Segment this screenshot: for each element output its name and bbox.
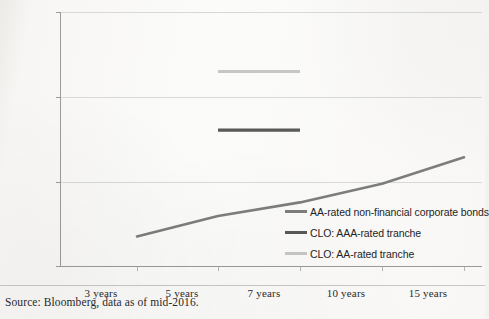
legend-label-clo-aaa-tranche: CLO: AAA-rated tranche [310, 227, 421, 239]
x-tick-mark-3-years [137, 267, 138, 271]
legend-swatch-icon-aa-corporate-bonds [285, 210, 307, 213]
legend-swatch-icon-clo-aaa-tranche [285, 231, 307, 234]
legend-label-aa-corporate-bonds: AA-rated non-financial corporate bonds [310, 206, 489, 218]
x-tick-mark-7-years [300, 267, 301, 271]
legend-item-clo-aa-tranche: CLO: AA-rated tranche [285, 243, 485, 264]
x-tick-mark-5-years [218, 267, 219, 271]
footer-divider [0, 285, 485, 286]
legend-item-clo-aaa-tranche: CLO: AAA-rated tranche [285, 222, 485, 243]
x-tick-mark-10-years [382, 267, 383, 271]
source-note: Source: Bloomberg, data as of mid-2016. [5, 296, 199, 308]
chart-legend: AA-rated non-financial corporate bonds C… [285, 201, 485, 264]
x-tick-mark-15-years [464, 267, 465, 271]
x-tick-label-15-years: 15 years [393, 287, 463, 299]
x-tick-label-7-years: 7 years [229, 287, 299, 299]
legend-label-clo-aa-tranche: CLO: AA-rated tranche [310, 248, 414, 260]
legend-item-aa-corporate-bonds: AA-rated non-financial corporate bonds [285, 201, 485, 222]
legend-swatch-icon-clo-aa-tranche [285, 252, 307, 255]
x-tick-label-10-years: 10 years [311, 287, 381, 299]
